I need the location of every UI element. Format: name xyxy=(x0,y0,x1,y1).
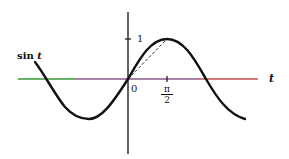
x-axis-label: t xyxy=(269,73,274,84)
x-tick-label-pi-over-2: π 2 xyxy=(161,84,173,105)
y-tick-label: 1 xyxy=(137,34,143,44)
sine-graph xyxy=(0,0,289,159)
origin-label: 0 xyxy=(131,84,137,94)
curve-label-var: t xyxy=(37,50,42,61)
curve-label: sin t xyxy=(17,51,42,61)
x-tick-numerator: π xyxy=(161,84,173,95)
chord-dashed xyxy=(128,39,167,79)
x-tick-denominator: 2 xyxy=(161,95,173,105)
curve-label-func: sin xyxy=(17,50,34,61)
